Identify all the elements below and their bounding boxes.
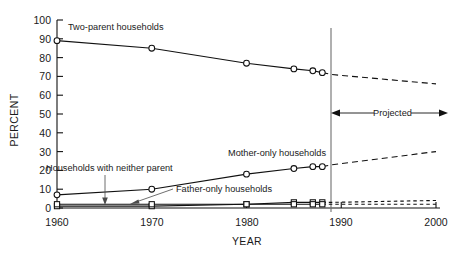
- x-tick-label-2000: 2000: [424, 216, 448, 228]
- label-households-with-neither-parent: Households with neither parent: [46, 163, 173, 173]
- data-point-marker: [149, 45, 155, 51]
- series-projection-2: [322, 200, 436, 202]
- data-point-marker: [319, 164, 325, 170]
- data-point-marker: [320, 202, 325, 207]
- data-point-marker: [310, 164, 316, 170]
- arrow-left-small-icon: [130, 200, 140, 204]
- label-two-parent-households: Two-parent households: [68, 22, 164, 32]
- data-point-marker: [310, 202, 315, 207]
- y-tick-label-100: 100: [33, 14, 51, 26]
- x-tick-label-1990: 1990: [329, 216, 353, 228]
- data-point-marker: [244, 171, 250, 177]
- data-point-marker: [54, 38, 60, 44]
- data-point-marker: [291, 166, 297, 172]
- y-axis-ticks: [57, 20, 63, 208]
- projected-label: Projected: [373, 108, 412, 118]
- x-tick-label-1980: 1980: [235, 216, 259, 228]
- y-tick-label-0: 0: [45, 202, 51, 214]
- series-projection-1: [322, 152, 436, 167]
- arrow-right-icon: [439, 110, 448, 117]
- y-tick-label-80: 80: [39, 52, 51, 64]
- data-point-marker: [319, 70, 325, 76]
- y-tick-label-60: 60: [39, 89, 51, 101]
- y-tick-label-40: 40: [39, 127, 51, 139]
- data-point-marker: [54, 192, 60, 198]
- y-tick-label-10: 10: [39, 183, 51, 195]
- x-tick-label-1960: 1960: [45, 216, 69, 228]
- x-axis-title: YEAR: [232, 235, 262, 247]
- data-point-marker: [149, 202, 154, 207]
- y-tick-label-30: 30: [39, 146, 51, 158]
- y-tick-label-90: 90: [39, 33, 51, 45]
- x-tick-label-1970: 1970: [140, 216, 164, 228]
- y-axis-title: PERCENT: [8, 93, 20, 146]
- neither-parent-callout-arrow: [102, 175, 108, 205]
- data-point-marker: [291, 202, 296, 207]
- y-tick-label-70: 70: [39, 70, 51, 82]
- label-mother-only-households: Mother-only households: [228, 148, 326, 158]
- label-father-only-households: Father-only households: [176, 184, 272, 194]
- data-point-marker: [244, 202, 249, 207]
- projected-annotation: Projected: [331, 108, 448, 118]
- data-point-marker: [291, 66, 297, 72]
- series-line-0: [57, 41, 322, 73]
- data-point-marker: [54, 202, 59, 207]
- series-projection-0: [322, 73, 436, 84]
- chart-container: 100 90 80 70 60 50 40 30 20 10 0 1960 19…: [0, 0, 456, 255]
- data-point-marker: [149, 186, 155, 192]
- y-tick-label-50: 50: [39, 108, 51, 120]
- data-point-marker: [244, 60, 250, 66]
- data-point-marker: [310, 68, 316, 74]
- line-chart: 100 90 80 70 60 50 40 30 20 10 0 1960 19…: [0, 0, 456, 255]
- arrow-left-icon: [331, 110, 340, 117]
